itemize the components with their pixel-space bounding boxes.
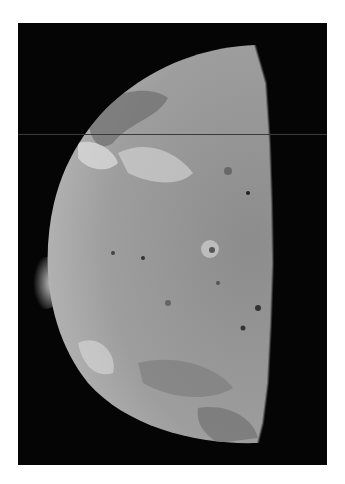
io-moon-image xyxy=(18,23,327,465)
scan-line-artifact xyxy=(18,134,327,135)
photo-frame xyxy=(18,23,327,465)
